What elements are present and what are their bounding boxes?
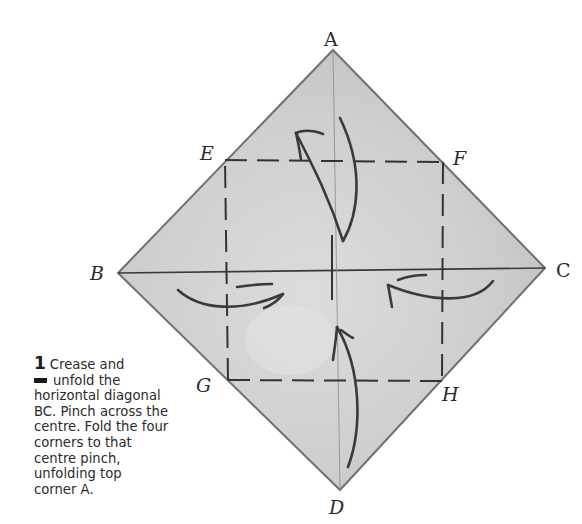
caption-line-7: unfolding top [34, 466, 184, 482]
label-point-f: F [452, 147, 467, 169]
caption-line-8: corner A. [34, 482, 184, 498]
paper-highlight [245, 305, 335, 375]
label-point-a: A [323, 28, 338, 50]
caption-line-6: centre pinch, [34, 451, 184, 467]
caption-line-0: 1Crease and [34, 356, 184, 373]
caption-line-2: horizontal diagonal [34, 388, 184, 404]
label-point-c: C [556, 259, 571, 281]
caption-line-1: unfold the [34, 373, 184, 389]
caption-line-5: corners to that [34, 435, 184, 451]
caption-line-3: BC. Pinch across the [34, 404, 184, 420]
label-point-b: B [89, 262, 104, 284]
label-point-d: D [328, 496, 344, 518]
step-caption: 1Crease and unfold the horizontal diagon… [34, 356, 184, 497]
label-point-h: H [441, 383, 459, 405]
label-point-e: E [199, 142, 214, 164]
step-underline-bar [34, 378, 47, 383]
caption-line-4: centre. Fold the four [34, 419, 184, 435]
step-number: 1 [34, 353, 46, 373]
label-point-g: G [196, 374, 211, 396]
